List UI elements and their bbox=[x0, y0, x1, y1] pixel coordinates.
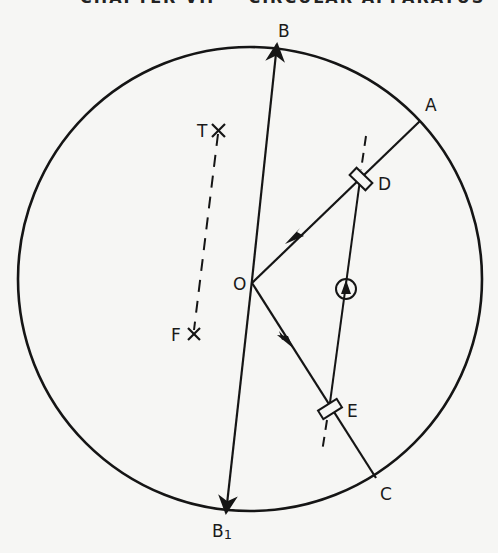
label-e: E bbox=[347, 401, 358, 421]
label-d: D bbox=[378, 174, 391, 194]
dash-above-d bbox=[361, 136, 366, 170]
label-b1: B1 bbox=[212, 521, 232, 542]
dashed-t-f bbox=[194, 134, 218, 330]
dash-below-e bbox=[322, 420, 327, 452]
label-b: B bbox=[278, 21, 290, 41]
label-o: O bbox=[233, 274, 246, 294]
label-a: A bbox=[425, 95, 437, 115]
label-t: T bbox=[196, 121, 208, 141]
label-c: C bbox=[380, 484, 392, 504]
label-f: F bbox=[171, 325, 181, 345]
circled-arrow-head bbox=[341, 280, 351, 294]
line-b-b1-lower bbox=[226, 280, 252, 513]
line-o-c bbox=[252, 283, 376, 478]
line-b-b1 bbox=[252, 44, 277, 280]
line-d-e bbox=[329, 180, 360, 410]
block-e bbox=[318, 399, 342, 419]
outer-circle bbox=[18, 47, 482, 511]
diagram: B A D O E C T F B1 bbox=[0, 0, 498, 553]
line-o-a bbox=[252, 121, 420, 283]
